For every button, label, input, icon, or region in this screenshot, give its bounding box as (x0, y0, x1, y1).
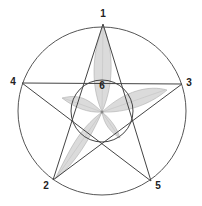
point-label-5: 5 (155, 181, 161, 191)
point-label-2: 2 (43, 181, 49, 191)
center-dot (101, 111, 104, 114)
diagram-canvas (0, 0, 202, 206)
point-label-1: 1 (100, 9, 106, 19)
center-label-6: 6 (99, 81, 105, 91)
pentagram-diagram: 1 2 3 4 5 6 (0, 0, 202, 206)
point-label-3: 3 (186, 78, 192, 88)
point-label-4: 4 (10, 77, 16, 87)
